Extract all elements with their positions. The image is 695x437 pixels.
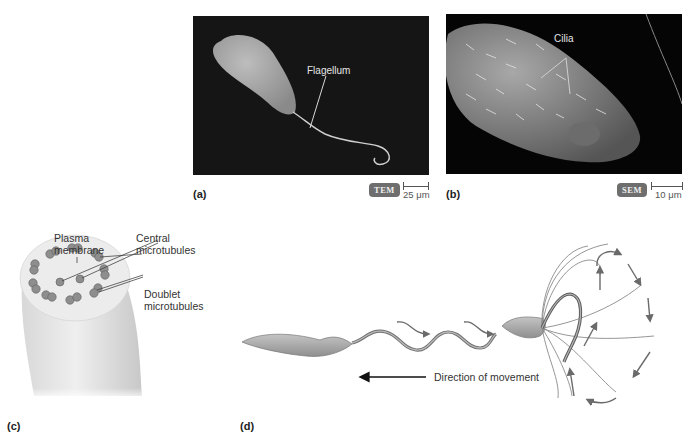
plasma-membrane-label-line2: membrane (54, 244, 104, 256)
cilia-label: Cilia (554, 33, 573, 44)
flagellate-cell-right (502, 317, 545, 338)
panel-letter-c: (c) (7, 420, 20, 432)
scale-bar-b-value: 10 μm (655, 189, 682, 200)
micrograph-b-cilia: Cilia (446, 14, 682, 174)
central-microtubules-label-line1: Central (136, 232, 170, 244)
flagellar-movement-diagram (230, 220, 695, 430)
scale-bar-b: 10 μm (651, 182, 683, 200)
scale-bar-a: 25 μm (403, 182, 429, 200)
doublet-microtubules-label-line1: Doublet (144, 288, 180, 300)
direction-of-movement-label: Direction of movement (434, 371, 539, 383)
flagellate-cell-image (193, 16, 429, 175)
scale-bar-a-value: 25 μm (403, 189, 430, 200)
flagellate-cell-left (242, 334, 352, 356)
flagellum-label: Flagellum (307, 65, 350, 76)
imaging-mode-badge-a: TEM (369, 183, 400, 197)
plasma-membrane-label-line1: Plasma (54, 232, 89, 244)
imaging-mode-badge-b: SEM (617, 183, 647, 197)
panel-letter-a: (a) (193, 188, 206, 200)
central-microtubules-label-line2: microtubules (136, 244, 196, 256)
doublet-microtubules-label-line2: microtubules (144, 300, 204, 312)
micrograph-a-flagellum: Flagellum (193, 16, 429, 175)
panel-letter-d: (d) (240, 420, 254, 432)
panel-letter-b: (b) (446, 188, 460, 200)
